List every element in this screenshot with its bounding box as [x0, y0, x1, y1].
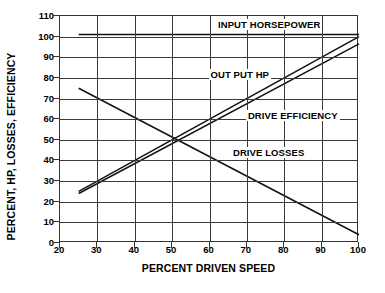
gridline-horizontal: [60, 57, 357, 58]
plot-area: [59, 15, 358, 242]
chart-figure: PERCENT, HP, LOSSES, EFFICIENCY PERCENT …: [0, 0, 385, 293]
y-axis-tick-mark: [53, 36, 59, 37]
y-axis-tick-label: 60: [26, 113, 54, 124]
y-axis-tick-label: 40: [26, 154, 54, 165]
x-axis-tick-mark: [209, 242, 210, 248]
x-axis-title: PERCENT DRIVEN SPEED: [59, 262, 358, 274]
x-axis-tick-mark: [246, 242, 247, 248]
series-annotation: DRIVE LOSSES: [231, 147, 306, 158]
y-axis-tick-mark: [53, 98, 59, 99]
gridline-vertical: [247, 16, 248, 241]
y-axis-tick-mark: [53, 201, 59, 202]
y-axis-title: PERCENT, HP, LOSSES, EFFICIENCY: [0, 0, 22, 293]
gridline-vertical: [322, 16, 323, 241]
gridline-horizontal: [60, 140, 357, 141]
gridline-horizontal: [60, 99, 357, 100]
gridline-horizontal: [60, 37, 357, 38]
series-annotation: OUT PUT HP: [209, 69, 272, 80]
x-axis-tick-mark: [96, 242, 97, 248]
gridline-horizontal: [60, 181, 357, 182]
x-axis-tick-mark: [134, 242, 135, 248]
y-axis-tick-label: 80: [26, 71, 54, 82]
gridline-vertical: [172, 16, 173, 241]
y-axis-tick-label: 50: [26, 133, 54, 144]
x-axis-tick-mark: [59, 242, 60, 248]
gridline-horizontal: [60, 160, 357, 161]
y-axis-tick-label: 110: [26, 10, 54, 21]
y-axis-tick-label: 90: [26, 51, 54, 62]
x-axis-tick-mark: [358, 242, 359, 248]
y-axis-tick-mark: [53, 180, 59, 181]
gridline-horizontal: [60, 202, 357, 203]
y-axis-tick-mark: [53, 56, 59, 57]
y-axis-tick-mark: [53, 15, 59, 16]
series-annotation: DRIVE EFFICIENCY: [246, 110, 340, 121]
y-axis-tick-label: 10: [26, 216, 54, 227]
gridline-vertical: [97, 16, 98, 241]
y-axis-tick-label: 70: [26, 92, 54, 103]
y-axis-tick-label: 20: [26, 195, 54, 206]
x-axis-tick-mark: [171, 242, 172, 248]
y-axis-tick-label: 30: [26, 175, 54, 186]
y-axis-tick-label: 100: [26, 30, 54, 41]
gridline-vertical: [284, 16, 285, 241]
x-axis-tick-mark: [321, 242, 322, 248]
gridline-vertical: [135, 16, 136, 241]
series-annotation: INPUT HORSEPOWER: [216, 19, 322, 30]
y-axis-tick-mark: [53, 159, 59, 160]
x-axis-tick-mark: [283, 242, 284, 248]
gridline-vertical: [210, 16, 211, 241]
y-axis-tick-mark: [53, 77, 59, 78]
y-axis-tick-mark: [53, 139, 59, 140]
y-axis-tick-mark: [53, 118, 59, 119]
y-axis-tick-mark: [53, 221, 59, 222]
gridline-horizontal: [60, 222, 357, 223]
